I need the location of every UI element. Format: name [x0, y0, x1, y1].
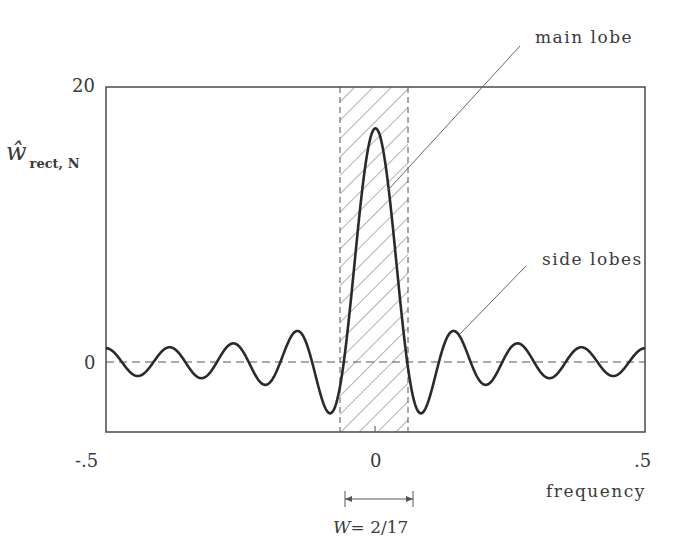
main-lobe-band — [340, 87, 408, 432]
side-lobes-leader-line — [460, 266, 526, 334]
chart-svg — [0, 0, 684, 559]
main-lobe-label: main lobe — [535, 27, 633, 47]
y-tick-0: 0 — [84, 352, 95, 373]
side-lobes-label: side lobes — [542, 249, 643, 269]
bandwidth-bracket — [345, 491, 413, 507]
x-axis-label: frequency — [546, 481, 646, 501]
bandwidth-value: = 2/17 — [350, 517, 408, 537]
bandwidth-label: W= 2/17 — [333, 517, 408, 537]
x-tick-zero-label: 0 — [370, 450, 381, 471]
x-tick-pos-half: .5 — [634, 450, 651, 471]
y-axis-label: ŵrect, N — [6, 138, 80, 166]
y-tick-20: 20 — [72, 75, 95, 96]
y-axis-label-symbol: ŵ — [6, 138, 27, 166]
bandwidth-symbol: W — [333, 517, 350, 537]
y-axis-label-subscript: rect, N — [30, 156, 80, 171]
x-tick-neg-half: -.5 — [75, 450, 98, 471]
